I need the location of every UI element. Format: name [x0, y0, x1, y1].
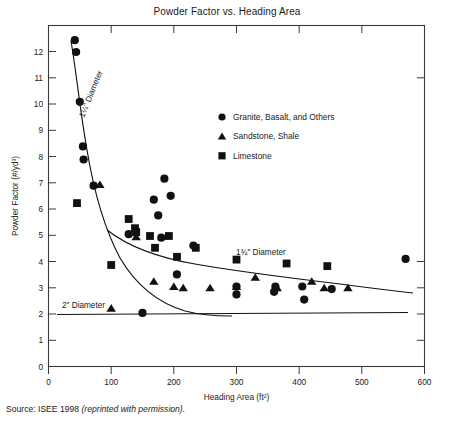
- data-point-circle: [402, 255, 410, 263]
- y-axis-label: Powder Factor (#/yd³): [10, 156, 20, 236]
- data-point-triangle: [251, 273, 260, 281]
- data-point-circle: [160, 175, 168, 183]
- data-point-square: [192, 244, 200, 252]
- y-tick-label: 10: [34, 99, 44, 109]
- data-point-triangle: [205, 284, 214, 292]
- data-point-triangle: [107, 304, 116, 312]
- data-point-circle: [79, 142, 87, 150]
- series-granite-basalt-others: [71, 36, 410, 317]
- data-point-square: [132, 228, 140, 236]
- x-tick-label: 300: [230, 377, 244, 387]
- x-axis: 0 100 200 300 400 500 600: [46, 367, 432, 388]
- data-point-square: [151, 244, 159, 252]
- x-axis-label: Heading Area (ft²): [204, 392, 270, 402]
- y-tick-label: 0: [38, 362, 43, 372]
- data-point-square: [283, 260, 291, 268]
- annotation-curve-1-25: 1¼" Diameter: [78, 69, 105, 119]
- x-tick-label: 0: [46, 377, 51, 387]
- source-lead: Source: ISEE 1998: [6, 404, 81, 414]
- data-point-square: [323, 262, 331, 270]
- x-tick-label: 500: [355, 377, 369, 387]
- x-tick-label: 400: [292, 377, 306, 387]
- source-permission: (reprinted with permission).: [81, 404, 185, 414]
- data-point-square: [73, 199, 81, 207]
- data-point-circle: [232, 290, 240, 298]
- data-point-circle: [154, 211, 162, 219]
- y-tick-label: 8: [38, 152, 43, 162]
- curve-2-diameter: [57, 313, 408, 315]
- y-tick-label: 11: [34, 73, 43, 83]
- y-axis: 0 1 2 3 4 5 6 7 8 9 10 11 12: [34, 47, 56, 372]
- data-point-square: [107, 261, 115, 269]
- data-point-circle: [71, 36, 79, 44]
- y-tick-label: 1: [38, 335, 43, 345]
- data-point-square: [173, 253, 181, 261]
- data-point-circle: [80, 155, 88, 163]
- y-tick-label: 4: [38, 257, 43, 267]
- data-point-circle: [150, 196, 158, 204]
- chart-plot-area: 0 1 2 3 4 5 6 7 8 9 10 11 12: [0, 0, 454, 422]
- data-point-circle: [167, 192, 175, 200]
- annotation-curve-1-75: 1¾" Diameter: [236, 248, 286, 257]
- plot-frame: [49, 26, 425, 367]
- legend-marker-triangle: [218, 132, 226, 139]
- data-point-triangle: [320, 284, 329, 292]
- annotation-curve-2: 2" Diameter: [62, 301, 105, 310]
- series-limestone: [73, 199, 331, 270]
- data-point-triangle: [179, 284, 188, 292]
- data-point-circle: [90, 182, 98, 190]
- y-tick-label: 5: [38, 230, 43, 240]
- data-point-square: [165, 232, 173, 240]
- chart-figure: Powder Factor vs. Heading Area 0 1 2 3 4…: [0, 0, 454, 422]
- x-tick-label: 200: [167, 377, 181, 387]
- data-point-circle: [76, 98, 84, 106]
- y-tick-label: 2: [38, 309, 43, 319]
- data-point-square: [146, 232, 154, 240]
- legend-marker-circle: [218, 113, 225, 120]
- legend-label: Granite, Basalt, and Others: [233, 112, 334, 122]
- legend-marker-square: [218, 152, 225, 159]
- legend-label: Sandstone, Shale: [233, 131, 299, 141]
- y-tick-label: 6: [38, 204, 43, 214]
- x-axis-top-ticks: [111, 26, 362, 34]
- y-axis-right-ticks: [417, 78, 425, 341]
- y-tick-label: 3: [38, 283, 43, 293]
- data-point-circle: [157, 234, 165, 242]
- data-point-circle: [173, 270, 181, 278]
- data-point-triangle: [169, 282, 178, 290]
- data-point-square: [233, 256, 241, 264]
- x-tick-label: 600: [418, 377, 432, 387]
- data-point-circle: [300, 296, 308, 304]
- data-point-circle: [72, 48, 80, 56]
- data-point-circle: [328, 285, 336, 293]
- y-tick-label: 9: [38, 125, 43, 135]
- data-point-circle: [298, 282, 306, 290]
- source-note: Source: ISEE 1998 (reprinted with permis…: [6, 404, 185, 414]
- legend-label: Limestone: [233, 151, 272, 161]
- x-tick-label: 100: [104, 377, 118, 387]
- data-point-square: [125, 215, 133, 223]
- y-tick-label: 12: [34, 47, 44, 57]
- data-point-circle: [138, 309, 146, 317]
- y-tick-label: 7: [38, 178, 43, 188]
- data-point-triangle: [149, 277, 158, 285]
- chart-legend: Granite, Basalt, and Others Sandstone, S…: [218, 112, 335, 161]
